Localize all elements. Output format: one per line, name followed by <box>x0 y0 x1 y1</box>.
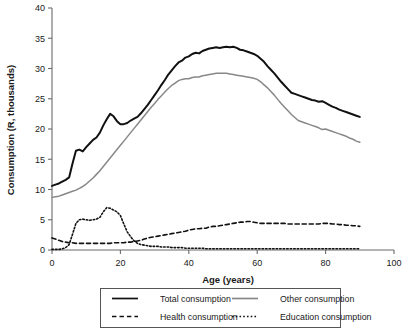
y-tick-label: 10 <box>35 185 45 195</box>
consumption-by-age-chart: 0510152025303540 020406080100 Consumptio… <box>0 0 413 333</box>
legend-label-total-consumption: Total consumption <box>160 294 231 304</box>
legend-label-other-consumption: Other consumption <box>280 294 354 304</box>
chart-canvas: 0510152025303540 020406080100 Consumptio… <box>0 0 413 333</box>
chart-legend: Total consumptionOther consumptionHealth… <box>101 289 372 328</box>
series-line-total-consumption <box>52 47 360 186</box>
series-line-health-consumption <box>52 222 360 244</box>
x-axis-title: Age (years) <box>202 274 254 285</box>
y-tick-label: 35 <box>35 34 45 44</box>
legend-label-health-consumption: Health consumption <box>160 312 238 322</box>
x-tick-label: 20 <box>115 258 125 268</box>
y-tick-label: 5 <box>40 215 45 225</box>
y-tick-label: 15 <box>35 155 45 165</box>
y-tick-label: 25 <box>35 94 45 104</box>
y-tick-label: 20 <box>35 124 45 134</box>
x-axis: 020406080100 <box>49 250 401 268</box>
series-lines <box>52 47 360 250</box>
y-axis: 0510152025303540 <box>35 3 52 255</box>
x-tick-label: 60 <box>252 258 262 268</box>
x-tick-label: 80 <box>321 258 331 268</box>
x-tick-label: 100 <box>386 258 401 268</box>
x-tick-label: 40 <box>184 258 194 268</box>
y-tick-label: 40 <box>35 3 45 13</box>
y-tick-label: 30 <box>35 64 45 74</box>
y-axis-title: Consumption (R, thousands) <box>5 65 16 195</box>
x-tick-label: 0 <box>49 258 54 268</box>
legend-label-education-consumption: Education consumption <box>280 312 372 322</box>
y-tick-label: 0 <box>40 245 45 255</box>
